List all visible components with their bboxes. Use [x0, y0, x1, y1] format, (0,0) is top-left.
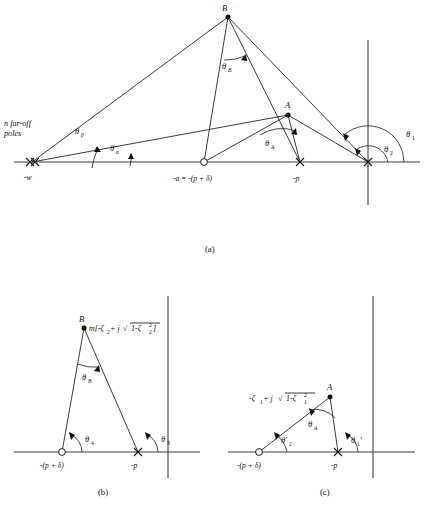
panel-c-label-a: A [326, 382, 333, 392]
panel-a-ray-origin-to-a [288, 115, 368, 162]
panel-c-theta-a-glyph: θ [308, 419, 312, 429]
panel-a-label-zero: -a = -(p + δ) [173, 174, 213, 183]
panel-a-note-line2: poles [3, 129, 21, 138]
panel-a-zero-marker [201, 159, 208, 166]
panel-b-caption: (b) [98, 487, 108, 497]
panel-b-radical-body: 1-ζ [131, 324, 142, 333]
panel-a-theta-2-glyph: θ [384, 144, 388, 154]
panel-a-theta-2-sub: 2 [390, 150, 393, 156]
panel-a-theta-alpha-glyph: θ [110, 143, 114, 153]
panel-a-arrow-alpha [128, 153, 134, 159]
panel-a-theta-alpha-sub: α [116, 149, 120, 155]
figure-container: n far-off poles B A θ β θ α θ B θ A θ [0, 0, 427, 505]
panel-c-theta-a-sub: A [313, 425, 318, 431]
panel-c-theta-2-prime-sub: 2 [289, 441, 292, 447]
panel-a-ray-zero-to-a [204, 115, 288, 162]
panel-c-theta-1-prime-mark: ' [360, 435, 362, 445]
panel-a-arc-theta-a [260, 128, 296, 135]
panel-a-theta-a-glyph: θ [265, 138, 269, 148]
panel-a-theta-alpha-label: θ α [110, 143, 120, 155]
panel-a-label-a: A [284, 100, 291, 110]
panel-c-theta-a-label: θ A [308, 419, 318, 431]
panel-b-expression: m[-ζ 2 + j √ 1-ζ 2 2 ] [89, 322, 160, 335]
panel-b-theta-4-sub: 4 [91, 440, 94, 446]
panel-c-theta-2-prime-label: θ' 2 [281, 435, 292, 447]
panel-c-group: A -ζ 1 + j √ 1-ζ 1 2 θ A θ' 2 θ 1 [228, 296, 415, 497]
panel-a-group: n far-off poles B A θ β θ α θ B θ A θ [3, 3, 420, 254]
panel-b-point-b-dot [82, 326, 87, 331]
panel-b-theta-b-label: θ B [82, 372, 92, 384]
panel-c-ray-p-to-a [330, 397, 338, 452]
panel-a-theta-1-glyph: θ [406, 129, 410, 139]
panel-b-arrow-b [94, 365, 100, 372]
panel-c-expression-mid: + j [263, 394, 273, 403]
panel-c-theta-2-prime-glyph: θ' [281, 435, 287, 445]
panel-a-theta-beta-sub: β [80, 132, 84, 138]
panel-b-expression-mid: + j [110, 324, 120, 333]
panel-a-theta-b-glyph: θ [222, 61, 226, 71]
panel-a-label-b: B [222, 3, 227, 13]
panel-a-theta-1-label: θ 1 [406, 129, 415, 141]
panel-b-expression-head: m[-ζ [89, 324, 105, 333]
panel-b-arc-theta-b [78, 364, 98, 367]
panel-c-radical-body: 1-ζ [286, 394, 297, 403]
panel-b-label-zero: -(p + δ) [40, 461, 64, 470]
panel-c-expression-head: -ζ [249, 394, 256, 403]
panel-a-ray-zero-to-b [204, 17, 228, 162]
panel-c-point-a-dot [328, 395, 333, 400]
panel-c-caption: (c) [320, 487, 330, 497]
panel-a-theta-a-label: θ A [265, 138, 275, 150]
panel-c-theta-1-prime-label: θ 1 ' [351, 435, 362, 447]
panel-b-zero-marker [59, 449, 66, 456]
panel-c-zero-marker [256, 449, 263, 456]
panel-a-caption: (a) [205, 244, 215, 254]
panel-a-ray-origin-to-b [228, 17, 368, 162]
panel-b-group: B m[-ζ 2 + j √ 1-ζ 2 2 ] θ B θ 4 θ [14, 296, 200, 497]
panel-a-theta-b-sub: B [228, 67, 232, 73]
panel-b-ray-zero-to-b [62, 328, 84, 452]
figure-svg: n far-off poles B A θ β θ α θ B θ A θ [0, 0, 427, 505]
panel-a-arc-theta-1 [344, 126, 404, 162]
panel-c-theta-1-prime-glyph: θ [351, 435, 355, 445]
panel-a-point-a-dot [286, 113, 291, 118]
panel-a-point-b-dot [226, 15, 231, 20]
panel-b-theta-4-label: θ 4 [85, 434, 94, 446]
panel-b-radical-sup: 2 [149, 322, 152, 328]
panel-b-arrow-3 [145, 432, 151, 440]
panel-c-radical-sup: 2 [304, 392, 307, 398]
panel-a-ray-w-to-b [32, 17, 228, 162]
panel-b-radical-sub: 2 [149, 329, 152, 335]
panel-b-theta-b-glyph: θ [82, 372, 86, 382]
panel-a-label-minus-p: -p [293, 174, 300, 183]
panel-b-label-b: B [79, 314, 84, 324]
panel-a-theta-beta-glyph: θ [75, 126, 79, 136]
panel-b-theta-3-glyph: θ [161, 434, 165, 444]
panel-b-ray-p-to-b [84, 328, 138, 452]
panel-c-expression: -ζ 1 + j √ 1-ζ 1 2 [249, 392, 315, 405]
panel-a-theta-b-label: θ B [222, 61, 232, 73]
panel-a-theta-1-sub: 1 [412, 135, 415, 141]
panel-b-expression-tail: ] [152, 324, 156, 333]
panel-a-theta-a-sub: A [270, 144, 275, 150]
panel-b-label-minus-p: -p [131, 461, 138, 470]
panel-c-radical-sub: 1 [304, 399, 307, 405]
panel-c-arrow-2-prime [274, 432, 280, 440]
panel-b-theta-b-sub: B [88, 378, 92, 384]
panel-b-arrow-4 [69, 432, 75, 440]
panel-a-arrow-beta [94, 146, 101, 152]
panel-a-ray-p-to-b [228, 17, 300, 162]
panel-b-radical-sign: √ [123, 324, 128, 333]
panel-b-theta-3-sub: 3 [167, 440, 170, 446]
panel-a-ray-w-to-a [32, 115, 288, 162]
panel-b-theta-4-glyph: θ [85, 434, 89, 444]
panel-a-theta-beta-label: θ β [75, 126, 84, 138]
panel-c-label-minus-p: -p [331, 461, 338, 470]
panel-a-label-minus-w: -w [24, 173, 33, 182]
panel-c-label-zero: -(p + δ) [237, 461, 261, 470]
panel-c-radical-sign: √ [278, 394, 283, 403]
panel-a-ray-p-to-a [288, 115, 300, 162]
panel-b-theta-3-label: θ 3 [161, 434, 170, 446]
panel-c-ray-zero-to-a [259, 397, 330, 452]
panel-a-note-line1: n far-off [4, 119, 33, 128]
